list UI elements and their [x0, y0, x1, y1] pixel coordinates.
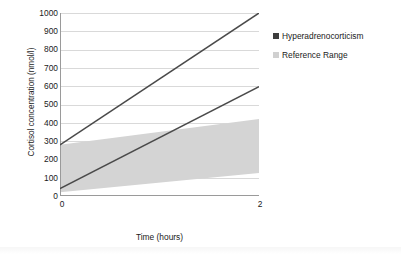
legend-item-hyperadrenocorticism: Hyperadrenocorticism: [273, 31, 399, 41]
legend-swatch-icon: [273, 33, 279, 39]
scan-artifact: [0, 247, 401, 254]
cortisol-chart-figure: Cortisol concentration (nmol/l) 1000 900…: [0, 0, 401, 254]
y-tick-label: 100: [20, 174, 58, 183]
y-tick-label: 800: [20, 45, 58, 54]
y-tick-label: 900: [20, 27, 58, 36]
y-tick-label: 500: [20, 100, 58, 109]
legend-swatch-icon: [273, 52, 279, 58]
reference-range-band: [60, 119, 259, 192]
y-axis-tick-labels: 1000 900 800 700 600 500 400 300 200 100…: [20, 0, 58, 254]
y-tick-label: 1000: [20, 9, 58, 18]
plot-area: [60, 13, 259, 196]
x-tick-label: 0: [52, 200, 72, 209]
chart-legend: Hyperadrenocorticism Reference Range: [273, 31, 399, 69]
y-tick-label: 700: [20, 64, 58, 73]
y-tick-label: 300: [20, 137, 58, 146]
legend-item-reference-range: Reference Range: [273, 50, 399, 60]
legend-item-label: Hyperadrenocorticism: [282, 31, 363, 41]
legend-item-label: Reference Range: [282, 50, 348, 60]
x-tick-label: 2: [250, 200, 270, 209]
x-axis-title: Time (hours): [60, 232, 259, 242]
y-tick-label: 600: [20, 82, 58, 91]
y-tick-label: 200: [20, 155, 58, 164]
y-tick-label: 400: [20, 119, 58, 128]
plot-svg: [60, 13, 259, 196]
